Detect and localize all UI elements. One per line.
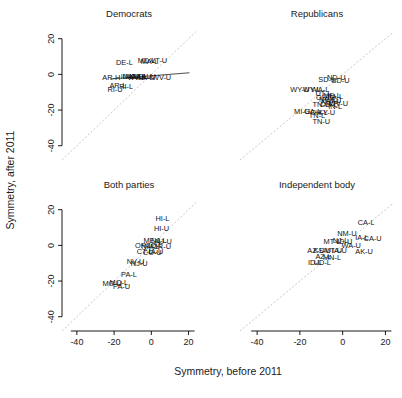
x-tick-label-2-0: -40 [70,337,83,347]
panel-both-parties: Both parties-40-20020-40-20020HI-LHI-UME… [46,179,196,347]
y-tick-label-2-3: 20 [46,205,56,215]
data-point-label: HI-L [156,214,170,223]
data-point-label: NJ-U [131,259,148,268]
panel-title-0: Democrats [106,8,152,19]
identity-reference-line [62,203,196,331]
data-point-label: PA-U [113,282,130,291]
data-point-label: RI-U [107,85,122,94]
y-tick-label-0-3: 20 [46,34,56,44]
data-point-label: DE-L [116,58,133,67]
data-point-label: WV-U [152,73,171,82]
x-tick-label-2-1: -20 [108,337,121,347]
x-tick-label-2-2: 0 [149,337,154,347]
panel-democrats: Democrats-40-20020DE-LMD-LMA-LVT-UAR-HIL… [46,8,196,160]
x-axis-title: Symmetry, before 2011 [174,365,282,377]
data-point-label: TN-U [312,117,330,126]
y-tick-label-2-0: -40 [46,310,56,323]
y-tick-label-2-1: -20 [46,275,56,288]
data-point-label: CA-L [358,218,375,227]
y-axis-title: Symmetry, after 2011 [4,130,16,229]
y-tick-label-0-1: -20 [46,104,56,117]
data-point-label: HI-U [154,224,169,233]
panel-title-1: Republicans [291,8,344,19]
x-tick-label-2-3: 20 [184,337,194,347]
data-point-label: UD-L [314,258,331,267]
panel-republicans: RepublicansND-USD-LSD-UWY-UWY-LWA-LUT-LO… [240,8,394,160]
x-tick-label-3-3: 20 [380,337,390,347]
y-tick-label-0-0: -40 [46,139,56,152]
scatter-facet-chart: Democrats-40-20020DE-LMD-LMA-LVT-UAR-HIL… [0,0,402,398]
x-tick-label-3-1: -20 [293,337,306,347]
figure-panel-grid: Democrats-40-20020DE-LMD-LMA-LVT-UAR-HIL… [0,0,402,398]
x-tick-label-3-0: -40 [251,337,264,347]
panel-title-2: Both parties [104,179,155,190]
data-point-label: SD-U [331,76,349,85]
panel-independent-body: Independent body-40-20020CA-LNM-UCA-UIA-… [240,179,394,347]
x-tick-label-3-2: 0 [340,337,345,347]
y-tick-label-2-2: 0 [46,243,56,248]
panel-title-3: Independent body [279,179,355,190]
identity-reference-line [62,32,196,160]
y-tick-label-0-2: 0 [46,72,56,77]
data-point-label: VT-U [150,56,167,65]
data-point-label: IA-U [149,247,164,256]
data-point-label: AK-U [355,247,373,256]
